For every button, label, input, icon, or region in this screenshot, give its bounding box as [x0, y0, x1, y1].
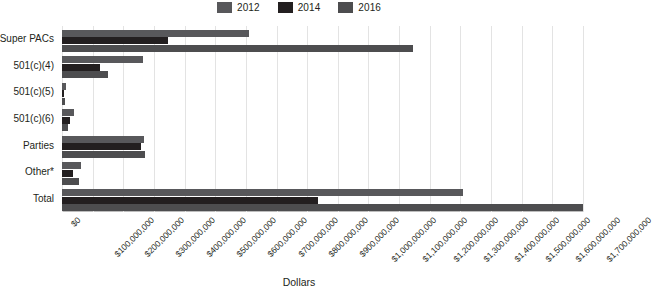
legend-item-2016[interactable]: 2016 — [338, 2, 381, 13]
legend-swatch-2012 — [217, 2, 232, 13]
bar-other-2012[interactable] — [62, 162, 81, 169]
bar-total-2016[interactable] — [62, 204, 583, 211]
x-axis-title: Dollars — [0, 276, 598, 288]
bar-parties-2016[interactable] — [62, 151, 145, 158]
bar-group — [62, 106, 583, 133]
bar-parties-2012[interactable] — [62, 136, 144, 143]
bar-group — [62, 26, 583, 53]
legend-swatch-2014 — [278, 2, 293, 13]
y-axis-labels: Super PACs501(c)(4)501(c)(5)501(c)(6)Par… — [0, 26, 58, 212]
bar-501-c-6-2014[interactable] — [62, 117, 70, 124]
chart-legend: 2012 2014 2016 — [0, 2, 598, 13]
legend-item-2012[interactable]: 2012 — [217, 2, 260, 13]
bar-super-pacs-2012[interactable] — [62, 30, 249, 37]
bar-group — [62, 185, 583, 212]
bar-501-c-4-2014[interactable] — [62, 64, 100, 71]
legend-label-2012: 2012 — [237, 2, 260, 13]
bar-501-c-4-2012[interactable] — [62, 56, 143, 63]
bar-super-pacs-2016[interactable] — [62, 45, 413, 52]
bar-group — [62, 53, 583, 80]
y-axis-label-super-pacs: Super PACs — [0, 33, 54, 44]
bar-group — [62, 132, 583, 159]
bar-501-c-5-2016[interactable] — [62, 98, 65, 105]
bar-501-c-4-2016[interactable] — [62, 71, 108, 78]
grid-line — [583, 26, 584, 212]
y-axis-label-501-c-6: 501(c)(6) — [13, 113, 54, 124]
bar-total-2014[interactable] — [62, 197, 318, 204]
plot-area — [62, 26, 583, 212]
bar-total-2012[interactable] — [62, 189, 463, 196]
bar-501-c-6-2012[interactable] — [62, 109, 74, 116]
bar-501-c-5-2012[interactable] — [62, 83, 66, 90]
bar-501-c-6-2016[interactable] — [62, 124, 68, 131]
y-axis-label-other: Other* — [25, 166, 54, 177]
bar-other-2016[interactable] — [62, 178, 79, 185]
legend-label-2016: 2016 — [358, 2, 381, 13]
bar-parties-2014[interactable] — [62, 143, 141, 150]
x-axis-tick-labels: $0$100,000,000$200,000,000$300,000,000$4… — [0, 213, 598, 275]
x-axis-tick: $0 — [69, 215, 83, 229]
y-axis-label-501-c-5: 501(c)(5) — [13, 86, 54, 97]
y-axis-label-parties: Parties — [23, 140, 54, 151]
bar-501-c-5-2014[interactable] — [62, 90, 64, 97]
bar-other-2014[interactable] — [62, 170, 73, 177]
bar-group — [62, 159, 583, 186]
legend-item-2014[interactable]: 2014 — [278, 2, 321, 13]
bar-group — [62, 79, 583, 106]
y-axis-label-total: Total — [33, 193, 54, 204]
legend-label-2014: 2014 — [298, 2, 321, 13]
bar-super-pacs-2014[interactable] — [62, 37, 168, 44]
legend-swatch-2016 — [338, 2, 353, 13]
y-axis-label-501-c-4: 501(c)(4) — [13, 60, 54, 71]
